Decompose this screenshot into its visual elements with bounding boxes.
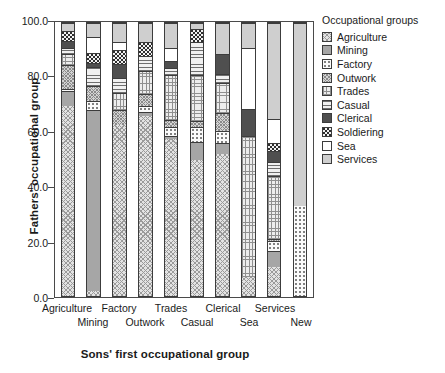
bar-segment-casual[interactable]	[87, 67, 99, 86]
stacked-bar-sea[interactable]	[241, 22, 255, 297]
legend-swatch-factory	[322, 59, 332, 69]
y-axis-tick-label: 40.0	[0, 181, 48, 193]
bar-segment-agriculture[interactable]	[113, 125, 125, 296]
legend-label: Casual	[337, 99, 370, 111]
bar-segment-casual[interactable]	[268, 162, 280, 176]
bar-segment-services[interactable]	[87, 23, 99, 37]
bar-segment-agriculture[interactable]	[216, 154, 228, 296]
bar-segment-services[interactable]	[165, 23, 177, 48]
bar-segment-soldiering[interactable]	[113, 50, 125, 64]
bar-segment-services[interactable]	[62, 23, 74, 31]
x-axis-tick-label-services: Services	[255, 302, 295, 314]
bar-segment-casual[interactable]	[216, 74, 228, 84]
bar-segment-factory[interactable]	[191, 127, 203, 142]
bar-segment-casual[interactable]	[113, 78, 125, 93]
x-axis-tick-label-factory: Factory	[101, 302, 136, 314]
stacked-bar-trades[interactable]	[164, 22, 178, 297]
y-axis-tick-label: 100.0	[0, 15, 48, 27]
legend-label: Trades	[337, 85, 369, 97]
bar-segment-agriculture[interactable]	[139, 116, 151, 296]
legend-item-outwork[interactable]: Outwork	[322, 71, 442, 85]
legend-item-factory[interactable]: Factory	[322, 57, 442, 71]
bar-segment-outwork[interactable]	[165, 120, 177, 127]
bar-segment-casual[interactable]	[139, 56, 151, 71]
bar-segment-trades[interactable]	[216, 83, 228, 113]
bar-segment-mining[interactable]	[216, 143, 228, 154]
bar-segment-outwork[interactable]	[139, 94, 151, 106]
bar-segment-agriculture[interactable]	[87, 291, 99, 296]
bar-segment-soldiering[interactable]	[62, 31, 74, 41]
bar-segment-casual[interactable]	[165, 68, 177, 75]
bar-segment-outwork[interactable]	[87, 86, 99, 101]
bar-segment-services[interactable]	[113, 23, 125, 42]
legend-item-sea[interactable]: Sea	[322, 139, 442, 153]
bar-segment-sea[interactable]	[87, 37, 99, 53]
bar-segment-outwork[interactable]	[216, 113, 228, 131]
legend-item-soldiering[interactable]: Soldiering	[322, 125, 442, 139]
stacked-bar-services[interactable]	[267, 22, 281, 297]
stacked-bar-clerical[interactable]	[215, 22, 229, 297]
bar-segment-trades[interactable]	[191, 75, 203, 121]
bar-segment-factory[interactable]	[87, 101, 99, 111]
legend-item-clerical[interactable]: Clerical	[322, 112, 442, 126]
bar-segment-factory[interactable]	[268, 241, 280, 251]
bar-segment-soldiering[interactable]	[268, 143, 280, 151]
legend-item-agriculture[interactable]: Agriculture	[322, 30, 442, 44]
bar-slot	[210, 22, 236, 297]
bar-segment-sea[interactable]	[113, 42, 125, 50]
bar-segment-factory[interactable]	[294, 206, 306, 296]
bar-segment-agriculture[interactable]	[242, 277, 254, 296]
bar-segment-mining[interactable]	[268, 251, 280, 267]
bar-segment-trades[interactable]	[113, 93, 125, 111]
bar-segment-services[interactable]	[294, 23, 306, 206]
bar-segment-services[interactable]	[268, 23, 280, 119]
bar-segment-sea[interactable]	[165, 48, 177, 62]
bar-segment-trades[interactable]	[139, 71, 151, 94]
x-axis-tick-label-outwork: Outwork	[125, 316, 164, 328]
bar-segment-agriculture[interactable]	[191, 160, 203, 297]
stacked-bar-factory[interactable]	[112, 22, 126, 297]
stacked-bar-new[interactable]	[293, 22, 307, 297]
bar-segment-agriculture[interactable]	[165, 139, 177, 296]
bar-segment-agriculture[interactable]	[268, 267, 280, 296]
bar-segment-mining[interactable]	[62, 91, 74, 106]
stacked-bar-casual[interactable]	[190, 22, 204, 297]
legend-title: Occupational groups	[322, 14, 442, 26]
bar-segment-services[interactable]	[216, 23, 228, 54]
bar-segment-soldiering[interactable]	[191, 29, 203, 43]
stacked-bar-mining[interactable]	[86, 22, 100, 297]
bar-segment-factory[interactable]	[216, 131, 228, 143]
bar-segment-casual[interactable]	[191, 42, 203, 75]
bar-segment-sea[interactable]	[268, 119, 280, 144]
stacked-bar-agriculture[interactable]	[61, 22, 75, 297]
bar-segment-sea[interactable]	[242, 48, 254, 109]
bar-segment-clerical[interactable]	[62, 41, 74, 48]
bar-segment-mining[interactable]	[191, 142, 203, 160]
bar-segment-factory[interactable]	[165, 127, 177, 137]
bar-segment-trades[interactable]	[165, 75, 177, 120]
bar-segment-clerical[interactable]	[165, 61, 177, 68]
bar-segment-outwork[interactable]	[62, 65, 74, 88]
bar-segment-services[interactable]	[139, 23, 151, 42]
legend-item-trades[interactable]: Trades	[322, 84, 442, 98]
bar-segment-soldiering[interactable]	[87, 53, 99, 63]
bar-segment-services[interactable]	[242, 23, 254, 48]
bar-segment-casual[interactable]	[62, 48, 74, 55]
bar-segment-trades[interactable]	[62, 54, 74, 65]
bar-segment-trades[interactable]	[268, 176, 280, 239]
legend-item-casual[interactable]: Casual	[322, 98, 442, 112]
bar-segment-outwork[interactable]	[113, 110, 125, 125]
bar-segment-agriculture[interactable]	[62, 106, 74, 296]
bar-segment-clerical[interactable]	[216, 54, 228, 73]
stacked-bar-outwork[interactable]	[138, 22, 152, 297]
bar-segment-clerical[interactable]	[242, 109, 254, 136]
bar-segment-trades[interactable]	[242, 136, 254, 277]
legend-label: Clerical	[337, 112, 372, 124]
bar-segment-clerical[interactable]	[113, 64, 125, 78]
bar-segment-soldiering[interactable]	[139, 42, 151, 56]
bar-segment-clerical[interactable]	[268, 151, 280, 162]
legend-item-mining[interactable]: Mining	[322, 44, 442, 58]
bar-segment-mining[interactable]	[87, 110, 99, 290]
legend-swatch-services	[322, 154, 332, 164]
legend-item-services[interactable]: Services	[322, 152, 442, 166]
